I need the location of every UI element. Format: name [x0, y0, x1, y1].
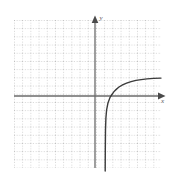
coordinate-plane-svg: y x — [0, 0, 172, 176]
graph-figure: y x — [0, 0, 172, 176]
x-axis-label: x — [160, 97, 165, 105]
y-axis-arrow-icon — [92, 16, 99, 24]
grid-lines — [14, 20, 161, 168]
